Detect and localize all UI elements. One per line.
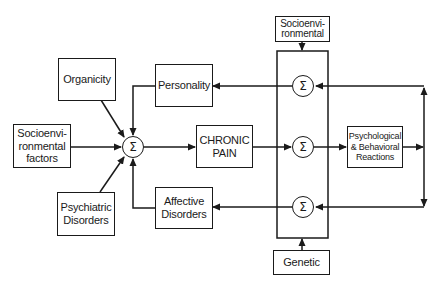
affective-disorders-label: Affective Disorders <box>161 195 206 220</box>
sigma-icon: Σ <box>299 140 307 154</box>
socioenvironmental-top-label: Socioenvi- ronmental <box>280 19 325 39</box>
personality-label: Personality <box>158 79 210 92</box>
personality-box: Personality <box>155 64 213 107</box>
socioenvironmental-factors-label: Socioenvi- ronmental factors <box>17 127 66 165</box>
psychological-behavioral-reactions-label: Psychological & Behavioral Reactions <box>349 131 401 162</box>
chronic-pain-box: CHRONIC PAIN <box>196 125 253 168</box>
chronic-pain-label: CHRONIC PAIN <box>200 134 250 159</box>
sigma-icon: Σ <box>299 200 307 214</box>
sigma-icon: Σ <box>299 79 307 93</box>
psychiatric-disorders-box: Psychiatric Disorders <box>57 192 115 236</box>
organicity-box: Organicity <box>58 58 116 101</box>
summation-node-middle: Σ <box>292 136 314 158</box>
psychiatric-disorders-label: Psychiatric Disorders <box>61 201 112 226</box>
genetic-label: Genetic <box>283 256 320 269</box>
summation-node-main: Σ <box>122 136 144 158</box>
organicity-label: Organicity <box>63 73 111 86</box>
socioenvironmental-top-box: Socioenvi- ronmental <box>275 16 330 42</box>
socioenvironmental-factors-box: Socioenvi- ronmental factors <box>13 124 71 168</box>
affective-disorders-box: Affective Disorders <box>155 187 213 229</box>
summation-node-top: Σ <box>292 75 314 97</box>
psychological-behavioral-reactions-box: Psychological & Behavioral Reactions <box>347 126 403 168</box>
summation-node-bottom: Σ <box>292 196 314 218</box>
genetic-box: Genetic <box>273 250 330 275</box>
sigma-icon: Σ <box>129 140 137 154</box>
